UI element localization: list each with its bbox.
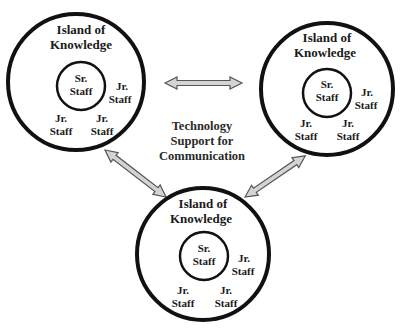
senior-staff-line-1: Sr. <box>321 78 334 90</box>
junior-staff-2-line-2: Staff <box>295 130 318 142</box>
junior-staff-2-line-1: Jr. <box>300 117 312 129</box>
senior-staff-line-1: Sr. <box>75 72 88 84</box>
senior-staff-line-2: Staff <box>70 85 93 97</box>
junior-staff-3-line-2: Staff <box>215 297 238 309</box>
island-top-right: Island of Knowledge Sr. Staff Jr. Staff … <box>261 23 393 155</box>
center-label-line-3: Communication <box>159 149 245 163</box>
junior-staff-3-line-1: Jr. <box>342 117 354 129</box>
arrow-top-right-to-bottom <box>242 151 309 202</box>
center-label-line-2: Support for <box>171 134 234 148</box>
junior-staff-1-line-1: Jr. <box>238 252 250 264</box>
junior-staff-2-line-1: Jr. <box>177 284 189 296</box>
senior-staff-line-1: Sr. <box>198 242 211 254</box>
arrow-top-left-to-top-right <box>165 77 242 89</box>
junior-staff-3-line-2: Staff <box>337 130 360 142</box>
island-title-line-1: Island of <box>179 196 228 211</box>
island-title-line-2: Knowledge <box>50 37 112 52</box>
senior-staff-line-2: Staff <box>316 91 339 103</box>
junior-staff-1-line-1: Jr. <box>361 86 373 98</box>
island-top-left: Island of Knowledge Sr. Staff Jr. Staff … <box>8 14 144 150</box>
center-label: Technology Support for Communication <box>159 119 245 163</box>
junior-staff-2-line-1: Jr. <box>55 112 67 124</box>
junior-staff-1-line-2: Staff <box>232 265 255 277</box>
senior-staff-line-2: Staff <box>193 255 216 267</box>
junior-staff-3-line-1: Jr. <box>220 284 232 296</box>
junior-staff-1-line-2: Staff <box>109 93 132 105</box>
center-label-line-1: Technology <box>172 119 233 133</box>
junior-staff-3-line-2: Staff <box>91 125 114 137</box>
junior-staff-1-line-2: Staff <box>355 99 378 111</box>
knowledge-islands-diagram: Technology Support for Communication Isl… <box>0 0 403 335</box>
junior-staff-3-line-1: Jr. <box>96 112 108 124</box>
junior-staff-2-line-2: Staff <box>50 125 73 137</box>
island-bottom: Island of Knowledge Sr. Staff Jr. Staff … <box>137 188 269 320</box>
junior-staff-1-line-1: Jr. <box>116 80 128 92</box>
island-title-line-2: Knowledge <box>170 211 232 226</box>
island-title-line-1: Island of <box>303 30 352 45</box>
junior-staff-2-line-2: Staff <box>172 297 195 309</box>
island-title-line-2: Knowledge <box>294 45 356 60</box>
island-title-line-1: Island of <box>57 22 106 37</box>
